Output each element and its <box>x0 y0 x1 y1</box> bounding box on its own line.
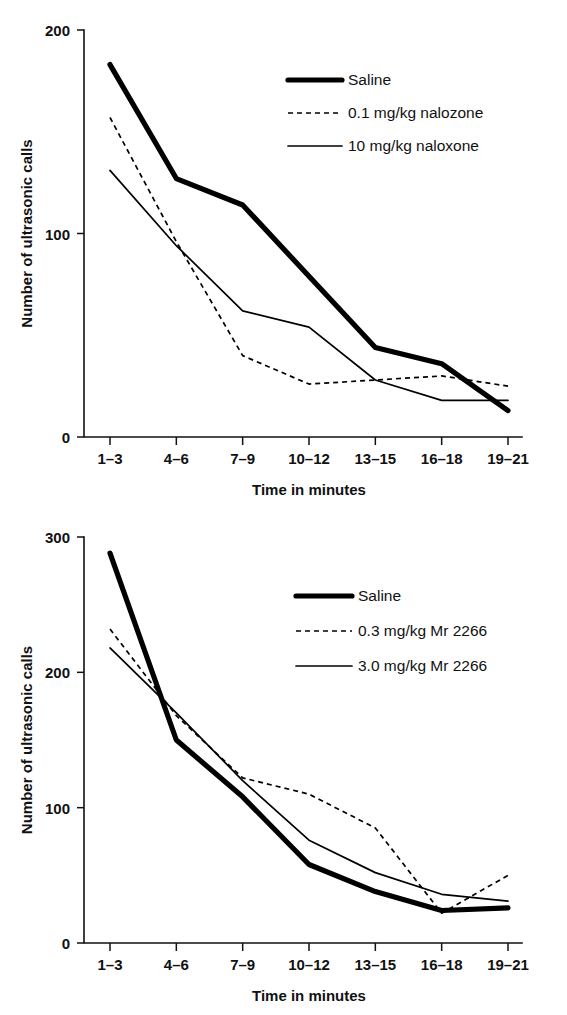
y-tick-label: 200 <box>45 22 70 39</box>
legend-label: Saline <box>348 71 391 88</box>
x-tick-label: 4–6 <box>164 450 189 467</box>
y-axis-title: Number of ultrasonic calls <box>18 139 35 327</box>
x-tick-label: 19–21 <box>487 450 529 467</box>
series-line <box>110 553 508 910</box>
legend: Saline0.3 mg/kg Mr 22663.0 mg/kg Mr 2266 <box>296 587 487 674</box>
chart-panel-bottom: 01002003001–34–67–910–1213–1516–1819–21T… <box>0 505 567 1015</box>
x-axis-ticks: 1–34–67–910–1213–1516–1819–21 <box>97 943 528 973</box>
y-tick-label: 0 <box>62 935 70 952</box>
line-chart-top: 01002001–34–67–910–1213–1516–1819–21Time… <box>0 0 567 505</box>
legend-label: Saline <box>358 587 401 604</box>
y-tick-label: 0 <box>62 429 70 446</box>
chart-panel-top: 01002001–34–67–910–1213–1516–1819–21Time… <box>0 0 567 505</box>
x-tick-label: 13–15 <box>354 956 396 973</box>
y-axis-ticks: 0100200300 <box>45 529 84 952</box>
y-tick-label: 100 <box>45 226 70 243</box>
y-tick-label: 100 <box>45 800 70 817</box>
x-tick-label: 7–9 <box>230 956 255 973</box>
legend-label: 0.1 mg/kg nalozone <box>348 104 483 121</box>
x-tick-label: 1–3 <box>97 450 122 467</box>
x-axis-ticks: 1–34–67–910–1213–1516–1819–21 <box>97 437 528 467</box>
x-tick-label: 16–18 <box>421 450 463 467</box>
x-tick-label: 10–12 <box>288 956 330 973</box>
x-tick-label: 13–15 <box>354 450 396 467</box>
legend: Saline0.1 mg/kg nalozone10 mg/kg naloxon… <box>288 71 483 154</box>
series-line <box>110 118 508 387</box>
legend-label: 10 mg/kg naloxone <box>348 137 479 154</box>
series-group <box>110 553 508 913</box>
legend-label: 0.3 mg/kg Mr 2266 <box>358 622 487 639</box>
figure-page: 01002001–34–67–910–1213–1516–1819–21Time… <box>0 0 567 1015</box>
x-tick-label: 19–21 <box>487 956 529 973</box>
y-axis-title: Number of ultrasonic calls <box>18 646 35 834</box>
x-tick-label: 1–3 <box>97 956 122 973</box>
legend-label: 3.0 mg/kg Mr 2266 <box>358 657 487 674</box>
x-axis-title: Time in minutes <box>252 987 366 1004</box>
x-axis-title: Time in minutes <box>252 481 366 498</box>
x-tick-label: 7–9 <box>230 450 255 467</box>
x-tick-label: 4–6 <box>164 956 189 973</box>
y-tick-label: 300 <box>45 529 70 546</box>
y-tick-label: 200 <box>45 664 70 681</box>
x-tick-label: 10–12 <box>288 450 330 467</box>
y-axis-ticks: 0100200 <box>45 22 84 446</box>
x-tick-label: 16–18 <box>421 956 463 973</box>
line-chart-bottom: 01002003001–34–67–910–1213–1516–1819–21T… <box>0 505 567 1015</box>
